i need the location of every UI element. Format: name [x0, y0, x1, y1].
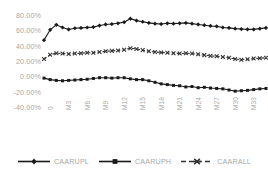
- data-point: [258, 27, 262, 31]
- data-point: [123, 76, 126, 79]
- data-point: [116, 21, 120, 25]
- data-point: [92, 77, 95, 80]
- data-point: [165, 21, 169, 25]
- y-tick-label: -20.00%: [14, 88, 41, 97]
- data-point: [166, 83, 169, 86]
- data-point: [61, 79, 64, 82]
- data-point: [128, 17, 132, 21]
- data-point: [85, 25, 89, 29]
- series-caaruph: [43, 76, 268, 92]
- data-point: [147, 79, 150, 82]
- data-point: [209, 87, 212, 90]
- data-point: [233, 27, 237, 31]
- x-tick-label: M30: [232, 97, 239, 110]
- y-tick-label: 60.00%: [16, 26, 41, 35]
- data-point: [110, 77, 113, 80]
- series-caarall: [42, 46, 268, 61]
- data-point: [202, 23, 206, 27]
- data-point: [73, 26, 77, 30]
- x-tick-label: 0: [47, 106, 54, 110]
- legend-key-caaruph: [98, 157, 132, 166]
- data-point: [258, 87, 261, 90]
- data-point: [97, 23, 101, 27]
- y-tick-label: -40.00%: [14, 103, 41, 112]
- x-tick-label: M21: [176, 97, 183, 110]
- data-point: [215, 24, 219, 28]
- data-point: [48, 53, 52, 57]
- legend-label-caaruph: CAARUPH: [135, 157, 171, 166]
- data-point: [110, 22, 114, 26]
- data-point: [134, 19, 138, 23]
- data-point: [42, 57, 46, 61]
- data-point: [228, 88, 231, 91]
- data-point: [178, 21, 182, 25]
- legend-item-caarall[interactable]: CAARALL: [180, 157, 251, 166]
- legend-key-caarupl: [17, 157, 51, 166]
- data-point: [49, 78, 52, 81]
- data-point: [80, 78, 83, 81]
- legend-label-caarall: CAARALL: [217, 157, 251, 166]
- data-point: [141, 78, 144, 81]
- x-tick-label: M15: [139, 97, 146, 110]
- data-point: [60, 25, 64, 29]
- legend-label-caarupl: CAARUPL: [54, 157, 89, 166]
- data-point: [234, 90, 237, 93]
- data-point: [79, 26, 83, 30]
- data-point: [246, 89, 249, 92]
- data-point: [172, 84, 175, 87]
- data-point: [98, 76, 101, 79]
- legend-item-caaruph[interactable]: CAARUPH: [98, 157, 171, 166]
- data-point: [159, 22, 163, 26]
- data-point: [43, 77, 46, 80]
- y-tick-label: 40.00%: [16, 42, 41, 51]
- data-point: [239, 27, 243, 31]
- x-tick-label: M33: [250, 97, 257, 110]
- x-tick-label: M9: [102, 101, 109, 110]
- data-point: [171, 22, 175, 26]
- x-tick-label: M12: [121, 97, 128, 110]
- data-point: [190, 22, 194, 26]
- data-point: [264, 26, 268, 30]
- data-point: [227, 26, 231, 30]
- y-tick-label: 20.00%: [16, 57, 41, 66]
- data-point: [55, 79, 58, 82]
- data-point: [104, 22, 108, 26]
- line-chart: 80.00%60.00%40.00%20.00%0.00%-20.00%-40.…: [0, 0, 268, 180]
- data-point: [245, 27, 249, 31]
- data-point: [264, 56, 268, 60]
- data-point: [252, 27, 256, 31]
- data-point: [67, 79, 70, 82]
- data-point: [215, 87, 218, 90]
- x-tick-label: M3: [65, 101, 72, 110]
- data-point: [208, 24, 212, 28]
- data-point: [104, 76, 107, 79]
- data-point: [191, 85, 194, 88]
- data-point: [122, 20, 126, 24]
- data-point: [184, 85, 187, 88]
- data-point: [184, 21, 188, 25]
- data-point: [91, 25, 95, 29]
- data-point: [147, 21, 151, 25]
- data-point: [153, 22, 157, 26]
- chart-legend: CAARUPL CAARUPH CAARALL: [0, 150, 268, 172]
- data-point: [154, 81, 157, 84]
- data-point: [221, 25, 225, 29]
- y-tick-label: 0.00%: [20, 72, 41, 81]
- data-point: [67, 27, 71, 31]
- data-point: [265, 87, 268, 90]
- data-point: [252, 88, 255, 91]
- series-caarupl: [42, 17, 268, 43]
- legend-item-caarupl[interactable]: CAARUPL: [17, 157, 89, 166]
- x-tick-label: M24: [195, 97, 202, 110]
- data-point: [141, 20, 145, 24]
- data-point: [86, 78, 89, 81]
- data-point: [117, 76, 120, 79]
- data-point: [197, 86, 200, 89]
- data-point: [196, 22, 200, 26]
- data-point: [160, 82, 163, 85]
- legend-key-caarall: [180, 157, 214, 166]
- data-point: [203, 86, 206, 89]
- data-point: [221, 87, 224, 90]
- y-tick-label: 80.00%: [16, 11, 41, 20]
- data-point: [135, 78, 138, 81]
